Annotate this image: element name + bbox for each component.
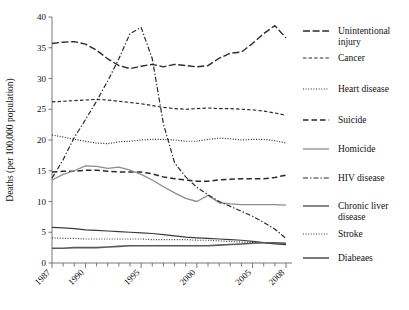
y-axis-title: Deaths (per 100,000 population)	[5, 78, 16, 201]
y-tick-label: 30	[37, 74, 47, 84]
legend-label-cont: injury	[338, 37, 361, 47]
legend-label: Homicide	[338, 144, 375, 154]
legend-label: Heart disease	[338, 84, 389, 94]
series-line-homicide	[52, 166, 286, 205]
mortality-line-chart: 0510152025303540198719901995200020052008…	[0, 0, 409, 310]
y-tick-label: 40	[37, 12, 47, 22]
legend-label-cont: disease	[338, 212, 365, 222]
legend-label: Chronic liver	[338, 201, 389, 211]
y-tick-label: 10	[37, 197, 47, 207]
legend-label: Stroke	[338, 229, 363, 239]
legend-label: Cancer	[338, 53, 366, 63]
series-line-chronic-liver-disease	[52, 227, 286, 244]
legend-label: Unintentional	[338, 26, 391, 36]
y-tick-label: 0	[42, 258, 47, 268]
x-tick-label: 2005	[233, 267, 253, 287]
y-tick-label: 35	[37, 43, 47, 53]
x-tick-label: 2000	[177, 267, 197, 287]
x-tick-label: 1990	[66, 267, 86, 287]
series-line-stroke	[52, 238, 286, 244]
y-tick-label: 20	[37, 135, 47, 145]
y-tick-label: 15	[37, 166, 47, 176]
legend-label: HIV disease	[338, 173, 385, 183]
chart-canvas: 0510152025303540198719901995200020052008…	[0, 0, 409, 310]
series-line-cancer	[52, 99, 286, 115]
series-line-suicide	[52, 170, 286, 181]
y-tick-label: 5	[42, 227, 47, 237]
x-tick-label: 2008	[267, 267, 287, 287]
series-line-hiv-disease	[52, 27, 286, 238]
y-tick-label: 25	[37, 104, 47, 114]
x-tick-label: 1987	[33, 267, 53, 287]
legend-label: Suicide	[338, 115, 367, 125]
series-line-diabeaes	[52, 243, 286, 249]
x-tick-label: 1995	[122, 267, 142, 287]
legend-label: Diabeaes	[338, 253, 373, 263]
series-line-unintentional-injury	[52, 26, 286, 69]
